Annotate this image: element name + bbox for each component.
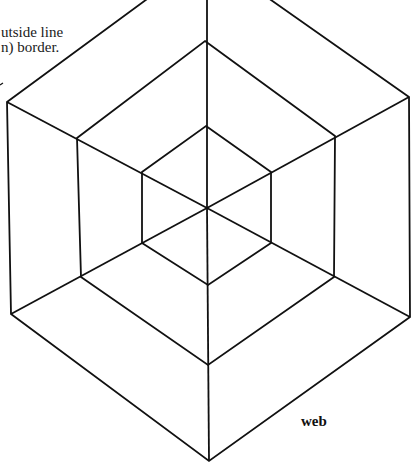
web-label: web — [301, 413, 327, 430]
caption-line-1: utside line — [1, 25, 63, 40]
hexagonal-web-diagram — [0, 0, 412, 470]
spoke-3 — [207, 208, 410, 317]
hexagon-middle — [77, 41, 335, 365]
spoke-6 — [7, 102, 207, 208]
caption-line-2: n) border. — [1, 40, 63, 55]
web-spokes — [7, 0, 410, 461]
leader-line-fragment — [0, 83, 3, 85]
spoke-2 — [207, 97, 409, 208]
caption-text: utside line n) border. — [1, 25, 63, 55]
spoke-4 — [207, 208, 209, 461]
spoke-5 — [11, 208, 207, 314]
